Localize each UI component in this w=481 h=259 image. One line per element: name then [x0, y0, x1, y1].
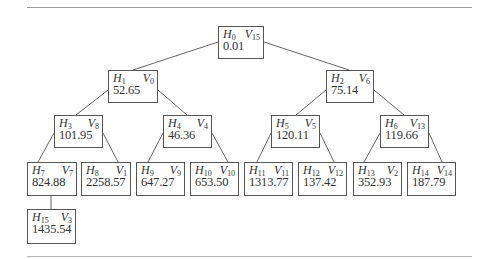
tree-node-n6: H6V13119.66 [380, 115, 429, 148]
v-index: 9 [177, 169, 181, 178]
v-prefix: V [143, 71, 150, 85]
node-value: 101.95 [59, 129, 99, 141]
edge-n3-n8 [103, 133, 118, 162]
tree-node-n9: H9V9647.27 [136, 162, 185, 196]
node-value: 1435.54 [32, 223, 72, 235]
v-index: 12 [335, 169, 343, 178]
node-v-label: V0 [143, 72, 154, 84]
edge-n5-n11 [257, 133, 271, 162]
node-value: 824.88 [32, 176, 73, 188]
v-index: 2 [394, 169, 398, 178]
node-value: 2258.57 [86, 176, 127, 188]
tree-node-n7: H7V7824.88 [27, 162, 77, 196]
v-index: 13 [417, 122, 425, 131]
v-index: 8 [95, 122, 99, 131]
node-value: 120.11 [276, 129, 316, 141]
node-value: 352.93 [358, 176, 398, 188]
edge-n1-n3 [76, 90, 108, 115]
node-v-label: V4 [197, 117, 208, 129]
tree-node-n1: H1V052.65 [108, 70, 158, 103]
node-value: 75.14 [331, 84, 370, 96]
v-index: 5 [312, 122, 316, 131]
edge-n3-n7 [38, 133, 54, 162]
node-value: 52.65 [113, 84, 154, 96]
v-index: 6 [366, 77, 370, 86]
tree-node-n5: H5V5120.11 [271, 115, 320, 148]
tree-node-n2: H2V675.14 [326, 70, 374, 103]
v-index: 4 [204, 122, 208, 131]
tree-node-n3: H3V8101.95 [54, 115, 103, 148]
tree-node-n4: H4V446.36 [163, 115, 212, 148]
edge-n0-n1 [133, 42, 218, 70]
edge-n5-n12 [320, 133, 334, 162]
v-index: 10 [227, 169, 235, 178]
edge-n4-n10 [212, 133, 228, 162]
edge-n2-n6 [374, 90, 404, 115]
tree-node-n12: H12V12137.42 [298, 162, 347, 196]
node-value: 647.27 [141, 176, 181, 188]
v-index: 0 [150, 77, 154, 86]
edge-n6-n13 [364, 133, 380, 162]
tree-node-n13: H13V2352.93 [353, 162, 402, 196]
edge-n1-n4 [158, 90, 187, 115]
v-prefix: V [197, 116, 204, 130]
v-index: 15 [252, 33, 260, 42]
node-v-label: V6 [359, 72, 370, 84]
node-value: 1313.77 [249, 176, 289, 188]
edge-n0-n2 [264, 42, 349, 70]
edge-n6-n14 [429, 133, 442, 162]
edge-n2-n5 [296, 90, 326, 115]
v-prefix: V [245, 27, 252, 41]
node-value: 46.36 [168, 129, 208, 141]
v-index: 7 [69, 169, 73, 178]
bottom-rule [27, 256, 472, 257]
v-index: 14 [444, 169, 452, 178]
node-v-label: V15 [245, 28, 260, 40]
tree-node-n10: H10V10653.50 [190, 162, 239, 196]
edge-n4-n9 [148, 133, 163, 162]
tree-node-n15: H15V31435.54 [27, 209, 76, 244]
tree-node-n0: H0V150.01 [218, 26, 264, 59]
tree-node-n8: H8V12258.57 [81, 162, 131, 196]
tree-node-n14: H14V14187.79 [407, 162, 456, 196]
tree-node-n11: H11V111313.77 [244, 162, 293, 196]
v-prefix: V [359, 71, 366, 85]
